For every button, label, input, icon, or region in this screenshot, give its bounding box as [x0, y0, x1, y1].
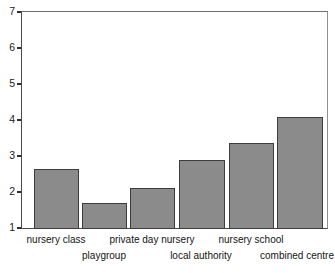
- x-label-nursery-class: nursery class: [27, 234, 86, 246]
- x-label-private-day-nursery: private day nursery: [109, 234, 194, 246]
- x-label-combined-centre: combined centre: [260, 250, 334, 262]
- x-label-local-authority: local authority: [170, 250, 232, 262]
- x-label-playgroup: playgroup: [82, 250, 126, 262]
- bar-chart: 7 6 5 4 3 2 1: [0, 0, 335, 273]
- x-label-nursery-school: nursery school: [218, 234, 283, 246]
- x-axis-labels: nursery class playgroup private day nurs…: [0, 0, 335, 273]
